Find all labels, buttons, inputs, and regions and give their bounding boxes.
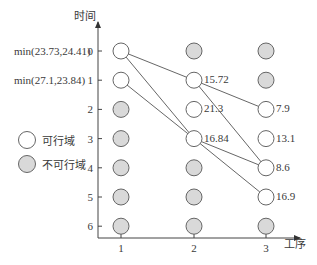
x-tick-label: 3: [260, 242, 272, 254]
feasible-node: [113, 72, 129, 88]
infeasible-node: [113, 218, 129, 234]
feasible-node: [186, 72, 202, 88]
feasible-node: [258, 131, 274, 147]
infeasible-node: [186, 43, 202, 59]
row-expression-1: min(27.1,23.84): [14, 74, 85, 86]
feasible-node: [186, 101, 202, 117]
y-tick-label: 2: [81, 103, 93, 115]
infeasible-node: [258, 218, 274, 234]
infeasible-node: [186, 218, 202, 234]
infeasible-swatch-icon: [18, 155, 36, 173]
legend-infeasible: 不可行域: [18, 155, 86, 173]
node-value-label: 7.9: [276, 102, 290, 114]
legend-feasible: 可行域: [18, 131, 75, 149]
y-tick-label: 1: [81, 74, 93, 86]
y-tick-label: 5: [81, 191, 93, 203]
infeasible-node: [186, 189, 202, 205]
infeasible-node: [258, 43, 274, 59]
edge: [194, 80, 266, 168]
y-tick-label: 0: [81, 45, 93, 57]
node-value-label: 21.3: [204, 102, 223, 114]
feasible-node: [258, 160, 274, 176]
infeasible-node: [186, 160, 202, 176]
feasible-node: [258, 189, 274, 205]
feasible-swatch-icon: [18, 131, 36, 149]
infeasible-node: [113, 131, 129, 147]
node-value-label: 13.1: [276, 132, 295, 144]
infeasible-node: [258, 72, 274, 88]
x-tick-label: 1: [115, 242, 127, 254]
infeasible-node: [113, 189, 129, 205]
infeasible-node: [113, 101, 129, 117]
x-axis-title: 工序: [284, 238, 306, 250]
x-tick-label: 2: [188, 242, 200, 254]
node-value-label: 15.72: [204, 73, 229, 85]
node-value-label: 16.84: [204, 132, 229, 144]
y-tick-label: 6: [81, 220, 93, 232]
edge: [121, 80, 194, 138]
y-tick-label: 3: [81, 133, 93, 145]
feasible-node: [186, 131, 202, 147]
legend-infeasible-label: 不可行域: [42, 156, 86, 172]
node-value-label: 8.6: [276, 161, 290, 173]
legend-feasible-label: 可行域: [42, 132, 75, 148]
feasible-node: [258, 101, 274, 117]
row-expression-0: min(23.73,24.41): [14, 45, 91, 57]
node-value-label: 16.9: [276, 190, 295, 202]
infeasible-node: [113, 160, 129, 176]
y-axis-title: 时间: [74, 10, 96, 22]
feasible-node: [113, 43, 129, 59]
edge: [194, 139, 266, 197]
nodes: [113, 43, 274, 234]
edge: [121, 51, 194, 139]
state-transition-diagram: 时间 工序 min(23.73,24.41) min(27.1,23.84) 0…: [0, 0, 317, 265]
y-axis-ticks: [98, 51, 102, 226]
edge: [121, 51, 194, 80]
